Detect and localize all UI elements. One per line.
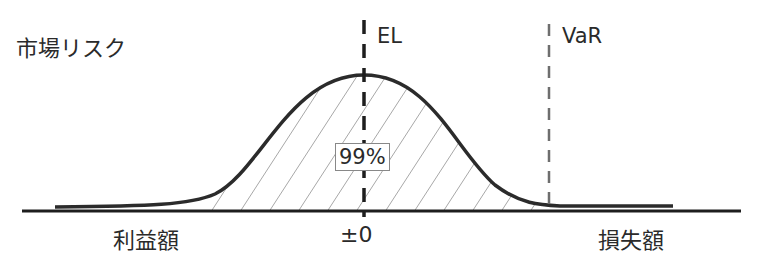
x-axis-left-label: 利益額 (113, 222, 179, 254)
confidence-label: 99% (335, 143, 390, 171)
diagram-title: 市場リスク (16, 30, 126, 62)
x-axis-right-label: 損失額 (598, 222, 664, 254)
el-label: EL (377, 24, 402, 48)
var-label: VaR (562, 24, 602, 48)
x-axis-center-label: ±0 (340, 222, 372, 247)
